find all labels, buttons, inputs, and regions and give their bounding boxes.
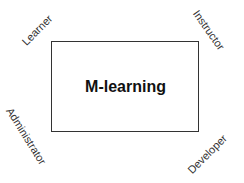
m-learning-title: M-learning: [51, 41, 200, 133]
actor-administrator: Administrator: [4, 105, 49, 166]
actor-developer: Developer: [185, 132, 229, 176]
actor-learner: Learner: [19, 12, 54, 47]
